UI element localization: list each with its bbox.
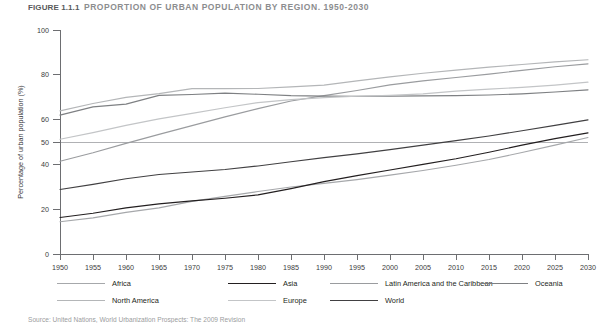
x-axis-tick-label: 1990	[316, 263, 332, 272]
legend-swatch-icon	[57, 300, 105, 301]
series-line-asia	[60, 133, 588, 218]
x-axis-tick-label: 1970	[184, 263, 200, 272]
chart-legend: AfricaAsiaLatin America and the Caribbea…	[0, 276, 603, 310]
legend-label: Europe	[283, 297, 307, 304]
x-axis-tick-label: 1960	[118, 263, 134, 272]
x-axis-tick-label: 2030	[580, 263, 596, 272]
line-chart: 02040506080100Percentage of urban popula…	[0, 14, 603, 272]
legend-swatch-icon	[57, 283, 105, 284]
source-note: Source: United Nations, World Urbanizati…	[28, 316, 588, 323]
legend-item-north-america[interactable]: North America	[57, 293, 159, 308]
legend-item-africa[interactable]: Africa	[57, 276, 131, 291]
x-axis-tick-label: 2010	[448, 263, 464, 272]
legend-label: Latin America and the Caribbean	[385, 280, 493, 287]
x-axis-tick-label: 2000	[382, 263, 398, 272]
legend-item-europe[interactable]: Europe	[228, 293, 307, 308]
y-axis-tick-label: 50	[41, 138, 49, 147]
legend-swatch-icon	[228, 283, 276, 284]
legend-item-oceania[interactable]: Oceania	[480, 276, 563, 291]
legend-item-world[interactable]: World	[330, 293, 404, 308]
x-axis-tick-label: 2005	[415, 263, 431, 272]
x-axis-tick-label: 1965	[151, 263, 167, 272]
figure-title-text: PROPORTION OF URBAN POPULATION BY REGION…	[84, 2, 369, 10]
legend-swatch-icon	[330, 283, 378, 284]
legend-swatch-icon	[228, 300, 276, 301]
y-axis-tick-label: 80	[41, 70, 49, 79]
figure-title: FIGURE 1.1.1 PROPORTION OF URBAN POPULAT…	[28, 0, 588, 10]
x-axis-tick-label: 1995	[349, 263, 365, 272]
legend-swatch-icon	[330, 300, 378, 301]
x-axis-tick-label: 2020	[514, 263, 530, 272]
figure-page: FIGURE 1.1.1 PROPORTION OF URBAN POPULAT…	[0, 0, 603, 325]
series-line-world	[60, 120, 588, 190]
series-line-north-america	[60, 60, 588, 111]
legend-label: North America	[112, 297, 159, 304]
series-line-oceania	[60, 90, 588, 115]
legend-swatch-icon	[480, 283, 528, 284]
y-axis-tick-label: 40	[41, 160, 49, 169]
legend-label: World	[385, 297, 404, 304]
legend-row: North AmericaEuropeWorld	[0, 293, 603, 308]
chart-plot-area: 02040506080100Percentage of urban popula…	[0, 14, 603, 272]
series-line-africa	[60, 138, 588, 222]
y-axis-title: Percentage of urban population (%)	[16, 85, 25, 198]
y-axis-tick-label: 60	[41, 115, 49, 124]
legend-item-asia[interactable]: Asia	[228, 276, 297, 291]
legend-row: AfricaAsiaLatin America and the Caribbea…	[0, 276, 603, 291]
y-axis-tick-label: 20	[41, 205, 49, 214]
legend-item-latin-america-and-the-caribbean[interactable]: Latin America and the Caribbean	[330, 276, 493, 291]
legend-label: Oceania	[535, 280, 563, 287]
x-axis-tick-label: 1975	[217, 263, 233, 272]
series-line-europe	[60, 82, 588, 139]
y-axis-tick-label: 0	[45, 250, 49, 259]
legend-label: Africa	[112, 280, 131, 287]
legend-label: Asia	[283, 280, 297, 287]
x-axis-tick-label: 2015	[481, 263, 497, 272]
y-axis-tick-label: 100	[37, 26, 49, 35]
x-axis-tick-label: 1980	[250, 263, 266, 272]
series-line-latin-america-and-the-caribbean	[60, 64, 588, 161]
x-axis-tick-label: 1950	[52, 263, 68, 272]
figure-number: FIGURE 1.1.1	[28, 3, 79, 10]
x-axis-tick-label: 1955	[85, 263, 101, 272]
x-axis-tick-label: 2025	[547, 263, 563, 272]
x-axis-tick-label: 1985	[283, 263, 299, 272]
